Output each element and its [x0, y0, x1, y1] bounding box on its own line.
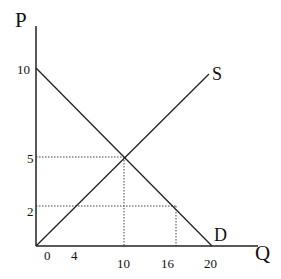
supply-curve: [36, 74, 209, 246]
y-tick-2: 2: [27, 205, 34, 218]
x-tick-10: 10: [117, 257, 130, 270]
supply-label: S: [212, 65, 222, 83]
supply-demand-diagram: [0, 0, 281, 279]
x-tick-4: 4: [71, 249, 78, 262]
p-axis-label: P: [15, 10, 27, 31]
demand-label: D: [214, 226, 227, 244]
y-tick-5: 5: [27, 152, 34, 165]
x-tick-20: 20: [204, 257, 217, 270]
x-tick-16: 16: [161, 257, 174, 270]
x-tick-0: 0: [44, 249, 51, 262]
q-axis-label: Q: [255, 243, 270, 264]
y-tick-10: 10: [17, 63, 30, 76]
